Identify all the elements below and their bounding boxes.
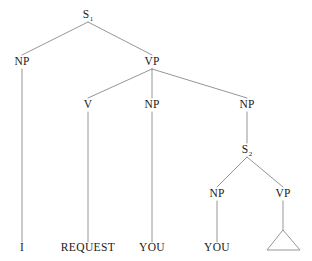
edge-s2-to-np_embedded xyxy=(217,157,247,187)
node-np-subject: NP xyxy=(14,56,29,68)
node-np-embedded: NP xyxy=(209,188,224,200)
terminal-i: I xyxy=(20,242,24,254)
elided-vp-triangle xyxy=(267,230,300,250)
node-v: V xyxy=(84,99,93,111)
edge-s1-to-np_subject xyxy=(22,22,88,55)
node-vp-main: VP xyxy=(144,56,159,68)
node-vp-embedded: VP xyxy=(275,188,290,200)
node-s1-subscript: 1 xyxy=(90,15,94,23)
node-s2: S2 xyxy=(242,144,252,156)
node-s2-label: S xyxy=(242,143,249,155)
tree-edges-layer xyxy=(0,0,312,261)
node-np-clause: NP xyxy=(239,99,254,111)
edge-s2-to-vp_embedded xyxy=(247,157,283,187)
edge-s1-to-vp_main xyxy=(88,22,152,55)
terminal-you-object: YOU xyxy=(139,242,165,254)
node-s1: S1 xyxy=(83,9,93,21)
node-s1-label: S xyxy=(83,8,90,20)
node-np-object: NP xyxy=(144,99,159,111)
edge-vp_main-to-np_clause xyxy=(152,69,247,98)
syntax-tree-diagram: S1 NP VP V NP NP S2 NP VP I REQUEST YOU … xyxy=(0,0,312,261)
terminal-request: REQUEST xyxy=(61,242,116,254)
node-s2-subscript: 2 xyxy=(249,150,253,158)
edge-vp_main-to-v xyxy=(88,69,152,98)
terminal-you-embedded: YOU xyxy=(204,242,230,254)
